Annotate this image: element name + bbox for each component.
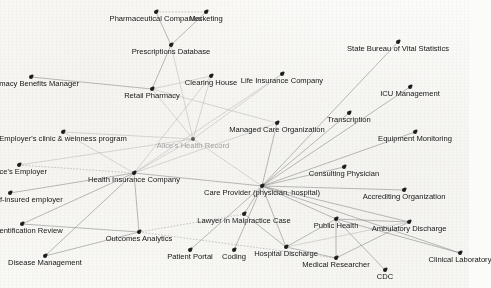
- node-label: Pharmacy Benefits Manager: [0, 79, 79, 88]
- node-label: Accrediting Organization: [363, 192, 446, 201]
- node-label: Alice's Health Record: [157, 141, 229, 150]
- node-label: Coding: [222, 252, 246, 261]
- node-label: Transcription: [327, 115, 371, 124]
- node-label: Marketing: [189, 14, 222, 23]
- node-label: Disease Management: [8, 258, 82, 267]
- node-label: Prescriptions Database: [132, 47, 211, 56]
- node-label: Lawyer in Malpractice Case: [197, 216, 290, 225]
- node-label: Alice's Employer: [0, 167, 47, 176]
- node-label: Outcomes Analytics: [106, 234, 173, 243]
- node-label: Clinical Laboratory: [429, 255, 491, 264]
- node-label: Patient Portal: [167, 252, 213, 261]
- node-label: Public Health: [314, 221, 359, 230]
- node-label: State Bureau of Vital Statistics: [347, 44, 449, 53]
- node-label: Ambulatory Discharge: [372, 224, 447, 233]
- node-label: Life Insurance Company: [241, 76, 323, 85]
- node-label: ICU Management: [380, 89, 440, 98]
- node-label: Equipment Monitoring: [378, 134, 452, 143]
- node-label: Medical Researcher: [302, 260, 370, 269]
- node-label: De-identification Review: [0, 226, 63, 235]
- node-label: CDC: [377, 272, 393, 281]
- node-label: Retail Pharmacy: [124, 91, 180, 100]
- node-label: Clearing House: [185, 78, 237, 87]
- node-label: Health Insurance Company: [88, 175, 180, 184]
- node-label: Managed Care Organization: [229, 125, 324, 134]
- edge-life_insurance-health_insurance: [134, 74, 282, 173]
- node-label: Employer's clinic & welnness program: [0, 134, 127, 143]
- node-label: Care Provider (physician, hospital): [204, 188, 320, 197]
- node-label: Hospital Discharge: [254, 249, 318, 258]
- node-label: Consulting Physician: [309, 169, 380, 178]
- node-label: Spouse's self-insured employer: [0, 195, 63, 204]
- edge-state_bureau-care_provider: [262, 42, 398, 186]
